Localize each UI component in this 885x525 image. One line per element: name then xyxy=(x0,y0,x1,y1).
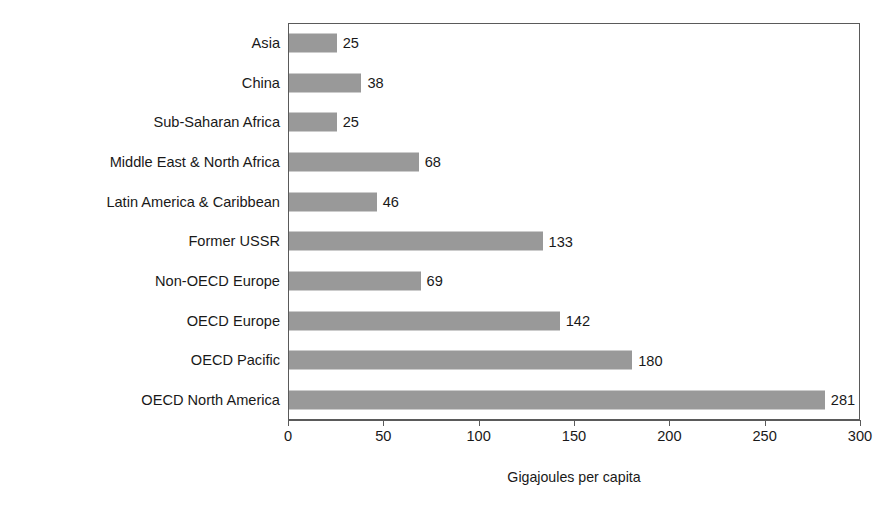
bar-row: Non-OECD Europe69 xyxy=(0,261,885,301)
bar-row: OECD North America281 xyxy=(0,380,885,420)
bar-row: Latin America & Caribbean46 xyxy=(0,182,885,222)
bar-row: Sub-Saharan Africa25 xyxy=(0,102,885,142)
bar-value-label: 133 xyxy=(549,234,573,249)
bar-value-label: 38 xyxy=(367,75,383,90)
x-axis: 050100150200250300 xyxy=(288,420,860,421)
x-axis-tick xyxy=(574,420,575,426)
category-label: Former USSR xyxy=(188,234,280,249)
x-axis-tick xyxy=(669,420,670,426)
category-label: Non-OECD Europe xyxy=(155,274,280,289)
category-label: Sub-Saharan Africa xyxy=(153,115,280,130)
x-axis-tick-label: 150 xyxy=(562,429,586,444)
bar xyxy=(289,272,421,291)
bar-with-value: 25 xyxy=(289,113,359,132)
x-axis-tick xyxy=(765,420,766,426)
category-label: OECD Europe xyxy=(187,313,280,328)
x-axis-tick xyxy=(288,420,289,426)
bar xyxy=(289,152,419,171)
bar-value-label: 69 xyxy=(427,274,443,289)
x-axis-tick xyxy=(383,420,384,426)
bar-value-label: 142 xyxy=(566,313,590,328)
bar xyxy=(289,351,632,370)
bar xyxy=(289,391,825,410)
bar-row: Former USSR133 xyxy=(0,222,885,262)
category-label: OECD Pacific xyxy=(191,353,280,368)
x-axis-tick xyxy=(479,420,480,426)
bar-value-label: 68 xyxy=(425,155,441,170)
bar-with-value: 69 xyxy=(289,272,443,291)
bar-row: OECD Pacific180 xyxy=(0,341,885,381)
bar-with-value: 38 xyxy=(289,73,384,92)
bar-row: OECD Europe142 xyxy=(0,301,885,341)
bar xyxy=(289,192,377,211)
bar-chart: Asia25China38Sub-Saharan Africa25Middle … xyxy=(0,0,885,525)
bar xyxy=(289,311,560,330)
bar-row: Middle East & North Africa68 xyxy=(0,142,885,182)
category-label: Asia xyxy=(252,36,280,51)
bar-row: China38 xyxy=(0,63,885,103)
bar-with-value: 281 xyxy=(289,391,855,410)
bar-with-value: 180 xyxy=(289,351,663,370)
x-axis-tick-label: 300 xyxy=(848,429,872,444)
category-label: OECD North America xyxy=(141,393,280,408)
bar-value-label: 25 xyxy=(343,115,359,130)
bar-with-value: 25 xyxy=(289,33,359,52)
bar xyxy=(289,73,361,92)
category-label: Middle East & North Africa xyxy=(110,155,280,170)
bar-with-value: 68 xyxy=(289,152,441,171)
bar-value-label: 281 xyxy=(831,393,855,408)
bar-rows: Asia25China38Sub-Saharan Africa25Middle … xyxy=(0,23,885,420)
x-axis-title: Gigajoules per capita xyxy=(288,470,860,484)
category-label: China xyxy=(242,75,280,90)
x-axis-tick-label: 200 xyxy=(657,429,681,444)
bar-with-value: 46 xyxy=(289,192,399,211)
bar-with-value: 133 xyxy=(289,232,573,251)
bar xyxy=(289,232,543,251)
bar xyxy=(289,33,337,52)
bar-with-value: 142 xyxy=(289,311,590,330)
bar-value-label: 46 xyxy=(383,194,399,209)
x-axis-tick-label: 100 xyxy=(466,429,490,444)
x-axis-tick-label: 250 xyxy=(752,429,776,444)
x-axis-tick-label: 0 xyxy=(284,429,292,444)
x-axis-tick-label: 50 xyxy=(375,429,391,444)
x-axis-tick xyxy=(860,420,861,426)
bar-value-label: 180 xyxy=(638,353,662,368)
bar xyxy=(289,113,337,132)
bar-row: Asia25 xyxy=(0,23,885,63)
category-label: Latin America & Caribbean xyxy=(106,194,280,209)
bar-value-label: 25 xyxy=(343,36,359,51)
